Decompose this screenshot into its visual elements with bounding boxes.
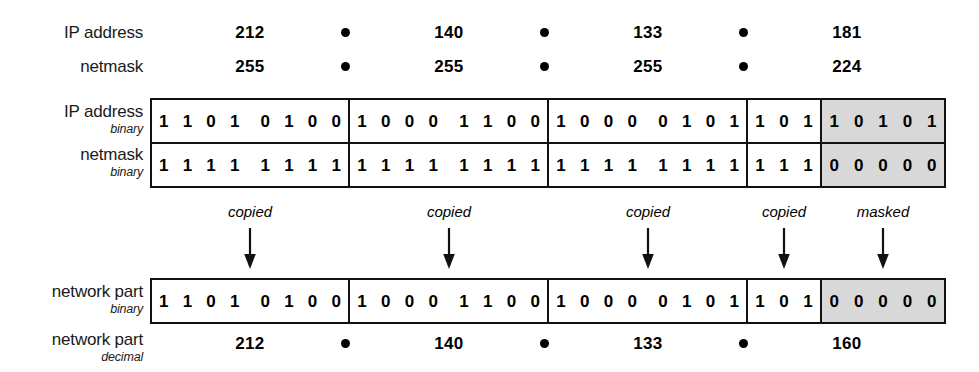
bit: 1 bbox=[549, 293, 573, 310]
bit: 0 bbox=[846, 157, 870, 174]
bit: 1 bbox=[796, 293, 820, 310]
bit: 0 bbox=[523, 113, 547, 130]
ip-binary-octet-2-bits: 1 0 0 0 1 1 0 0 bbox=[350, 100, 547, 142]
bit: 0 bbox=[699, 113, 723, 130]
bit: 1 bbox=[398, 157, 422, 174]
bit: 0 bbox=[871, 293, 895, 310]
ip-binary-octet-4-network-bits: 1 0 1 bbox=[748, 100, 820, 142]
bit: 1 bbox=[176, 157, 200, 174]
bit: 1 bbox=[822, 113, 846, 130]
network-decimal-row-sublabel: decimal bbox=[0, 351, 143, 364]
ip-decimal-octet-2: 140 bbox=[414, 23, 484, 43]
netmask-decimal-separator-dot-2 bbox=[540, 62, 549, 71]
netmask-decimal-row-label: netmask bbox=[0, 57, 143, 77]
bit: 0 bbox=[324, 113, 348, 130]
bit: 1 bbox=[176, 113, 200, 130]
bit: 1 bbox=[176, 293, 200, 310]
bit: 1 bbox=[476, 157, 500, 174]
bit: 1 bbox=[722, 293, 746, 310]
bit: 1 bbox=[476, 113, 500, 130]
bit: 1 bbox=[675, 113, 699, 130]
bit: 1 bbox=[254, 157, 278, 174]
bit: 0 bbox=[324, 293, 348, 310]
bit: 1 bbox=[223, 157, 247, 174]
ip-binary-octet-1-bits: 1 1 0 1 0 1 0 0 bbox=[152, 100, 348, 142]
bit: 1 bbox=[699, 157, 723, 174]
ip-binary-row-label-text: IP address bbox=[64, 102, 143, 121]
bit: 1 bbox=[748, 157, 772, 174]
bit: 1 bbox=[301, 157, 325, 174]
ip-decimal-octet-1: 212 bbox=[215, 23, 285, 43]
bit: 0 bbox=[846, 113, 870, 130]
bit: 0 bbox=[871, 157, 895, 174]
network-decimal-octet-2: 140 bbox=[414, 334, 484, 354]
bit: 1 bbox=[223, 293, 247, 310]
network-decimal-separator-dot-2 bbox=[540, 339, 549, 348]
bit: 1 bbox=[476, 293, 500, 310]
annotation-arrow-1-icon bbox=[242, 228, 258, 270]
bit: 1 bbox=[277, 157, 301, 174]
bit: 0 bbox=[421, 293, 445, 310]
annotation-arrow-3-icon bbox=[640, 228, 656, 270]
network-binary-octet-1-bits: 1 1 0 1 0 1 0 0 bbox=[152, 280, 348, 322]
network-binary-octet-1-cell: 1 1 0 1 0 1 0 0 bbox=[150, 278, 350, 324]
ip-binary-octet-3-bits: 1 0 0 0 0 1 0 1 bbox=[549, 100, 746, 142]
network-binary-octet-4-host-cell: 0 0 0 0 0 bbox=[820, 278, 946, 324]
network-binary-row-sublabel: binary bbox=[0, 303, 143, 316]
ip-binary-octet-2-cell: 1 0 0 0 1 1 0 0 bbox=[348, 98, 549, 144]
annotation-label-1: copied bbox=[228, 203, 272, 220]
netmask-binary-octet-1-cell: 1 1 1 1 1 1 1 1 bbox=[150, 142, 350, 188]
bit: 0 bbox=[895, 293, 919, 310]
netmask-binary-octet-3-cell: 1 1 1 1 1 1 1 1 bbox=[547, 142, 748, 188]
bit: 0 bbox=[500, 293, 524, 310]
netmask-binary-row-label-text: netmask bbox=[80, 145, 143, 164]
network-decimal-row-label: network part decimal bbox=[0, 330, 143, 364]
bit: 1 bbox=[573, 157, 597, 174]
network-decimal-octet-3: 133 bbox=[613, 334, 683, 354]
bit: 1 bbox=[152, 293, 176, 310]
netmask-binary-octet-4-network-cell: 1 1 1 bbox=[746, 142, 822, 188]
ip-binary-octet-4-host-bits: 1 0 1 0 1 bbox=[822, 100, 944, 142]
bit: 0 bbox=[374, 293, 398, 310]
bit: 0 bbox=[523, 293, 547, 310]
bit: 0 bbox=[199, 113, 223, 130]
bit: 0 bbox=[651, 113, 675, 130]
network-decimal-row-label-text: network part bbox=[52, 330, 143, 349]
bit: 0 bbox=[254, 113, 278, 130]
netmask-decimal-separator-dot-3 bbox=[739, 62, 748, 71]
bit: 1 bbox=[452, 113, 476, 130]
network-binary-octet-4-host-bits: 0 0 0 0 0 bbox=[822, 280, 944, 322]
bit: 0 bbox=[822, 157, 846, 174]
ip-binary-row-sublabel: binary bbox=[0, 123, 143, 136]
bit: 0 bbox=[421, 113, 445, 130]
annotation-label-4: copied bbox=[762, 203, 806, 220]
bit: 0 bbox=[573, 113, 597, 130]
netmask-decimal-row-label-text: netmask bbox=[80, 57, 143, 76]
netmask-binary-octet-4-host-bits: 0 0 0 0 0 bbox=[822, 144, 944, 186]
ip-decimal-separator-dot-1 bbox=[341, 28, 350, 37]
bit: 1 bbox=[748, 293, 772, 310]
bit: 1 bbox=[748, 113, 772, 130]
bit: 1 bbox=[523, 157, 547, 174]
ip-binary-octet-1-cell: 1 1 0 1 0 1 0 0 bbox=[150, 98, 350, 144]
bit: 1 bbox=[500, 157, 524, 174]
network-binary-octet-2-cell: 1 0 0 0 1 1 0 0 bbox=[348, 278, 549, 324]
netmask-decimal-separator-dot-1 bbox=[341, 62, 350, 71]
bit: 1 bbox=[920, 113, 944, 130]
annotation-arrow-2-icon bbox=[441, 228, 457, 270]
network-decimal-octet-4: 160 bbox=[812, 334, 882, 354]
bit: 0 bbox=[301, 113, 325, 130]
network-binary-row-label-text: network part bbox=[52, 282, 143, 301]
network-binary-octet-4-network-bits: 1 0 1 bbox=[748, 280, 820, 322]
bit: 1 bbox=[350, 157, 374, 174]
bit: 1 bbox=[421, 157, 445, 174]
network-binary-octet-2-bits: 1 0 0 0 1 1 0 0 bbox=[350, 280, 547, 322]
bit: 0 bbox=[597, 293, 621, 310]
bit: 1 bbox=[152, 113, 176, 130]
bit: 1 bbox=[796, 113, 820, 130]
bit: 1 bbox=[675, 293, 699, 310]
network-binary-octet-3-bits: 1 0 0 0 0 1 0 1 bbox=[549, 280, 746, 322]
netmask-decimal-octet-4: 224 bbox=[812, 57, 882, 77]
bit: 0 bbox=[620, 113, 644, 130]
bit: 0 bbox=[199, 293, 223, 310]
